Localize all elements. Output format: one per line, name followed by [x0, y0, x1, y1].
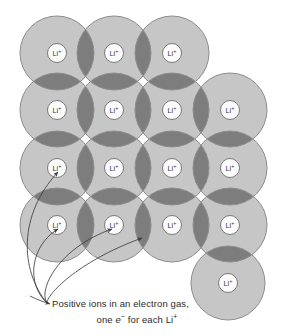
caption-line-2: one e− for each Li+ [52, 310, 222, 326]
caption-prefix: one [97, 314, 116, 325]
lithium-charge-sup: + [173, 313, 177, 320]
caption-pointer-arrow [30, 296, 50, 304]
caption-line-1: Positive ions in an electron gas, [52, 297, 222, 310]
caption-middle: for each Li [125, 314, 173, 325]
lattice-diagram: Li+Li+Li+Li+Li+Li+Li+Li+Li+Li+Li+Li+Li+L… [0, 0, 281, 336]
figure-caption: Positive ions in an electron gas, one e−… [52, 297, 222, 326]
lithium-lattice-figure: Li+Li+Li+Li+Li+Li+Li+Li+Li+Li+Li+Li+Li+L… [0, 0, 281, 336]
